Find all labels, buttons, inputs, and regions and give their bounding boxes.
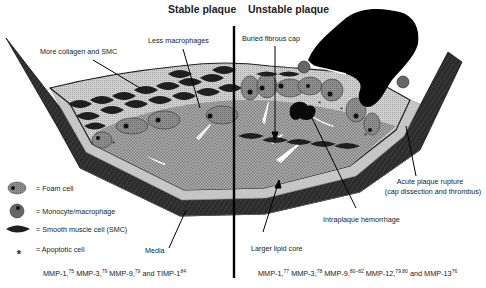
annotation-buried-cap: Buried fibrous cap (242, 34, 300, 43)
legend-apoptotic: * = Apoptotic cell (17, 245, 85, 260)
monocyte-macrophage-icon (10, 204, 24, 218)
annotation-more-collagen: More collagen and SMC (40, 47, 117, 56)
legend: = Foam cell = Monocyte/macrophage = Smoo… (6, 182, 127, 260)
annotation-less-macrophages: Less macrophages (148, 36, 209, 45)
legend-smc: = Smooth muscle cell (SMC) (6, 225, 127, 234)
svg-text:*: * (340, 105, 343, 114)
apoptotic-cell-icon: * (17, 248, 22, 260)
legend-label-apoptotic: = Apoptotic cell (36, 245, 85, 254)
svg-text:*: * (112, 139, 115, 148)
foam-cell-icon (8, 182, 26, 194)
annotation-acute-rupture: Acute plaque rupture (397, 177, 464, 186)
annotation-acute-rupture-sub: (cap dissection and thrombus) (385, 187, 481, 196)
legend-label-foam-cell: = Foam cell (36, 184, 74, 193)
smooth-muscle-cell-icon (6, 226, 30, 233)
svg-text:*: * (364, 131, 367, 140)
legend-label-monocyte: = Monocyte/macrophage (36, 207, 115, 216)
references-stable: MMP-1,75 MMP-3,79 MMP-9,79 and TIMP-184 (43, 268, 186, 278)
plaque-diagram: * * (0, 0, 486, 288)
title-unstable: Unstable plaque (248, 3, 329, 15)
legend-monocyte: = Monocyte/macrophage (10, 204, 115, 218)
legend-foam-cell: = Foam cell (8, 182, 74, 194)
references-unstable: MMP-1,77 MMP-3,78 MMP-9,80–82 MMP-12,79,… (258, 268, 457, 278)
annotation-intraplaque-hemorrhage: Intraplaque hemorrhage (323, 215, 400, 224)
title-stable: Stable plaque (168, 3, 236, 15)
annotation-media: Media (145, 246, 165, 255)
annotation-larger-lipid-core: Larger lipid core (251, 244, 303, 253)
legend-label-smc: = Smooth muscle cell (SMC) (36, 225, 127, 234)
annotation-acute-rupture-line1: Acute plaque rupture (397, 177, 464, 186)
svg-text:*: * (318, 99, 321, 108)
